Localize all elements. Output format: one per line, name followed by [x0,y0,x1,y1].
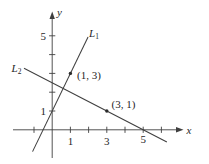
point-marker [69,72,72,75]
point-label: (3, 1) [112,98,136,111]
y-axis-arrowhead-icon [50,12,55,20]
line-l1 [33,37,89,152]
line-l1-label: L1 [88,27,99,41]
plot-svg: xy13515L1L2(1, 3)(3, 1) [0,0,209,164]
point-marker [105,109,108,112]
y-axis-label: y [56,6,62,18]
x-tick-label: 5 [140,133,146,145]
line-l2-label: L2 [11,62,22,76]
y-tick-label: 1 [41,105,47,117]
x-tick-label: 3 [104,135,110,147]
x-tick-label: 1 [68,135,74,147]
coordinate-plane-figure: xy13515L1L2(1, 3)(3, 1) [0,0,209,164]
x-axis-label: x [186,124,192,136]
y-tick-label: 5 [41,30,47,42]
x-axis-arrowhead-icon [176,127,184,132]
point-label: (1, 3) [77,69,101,82]
